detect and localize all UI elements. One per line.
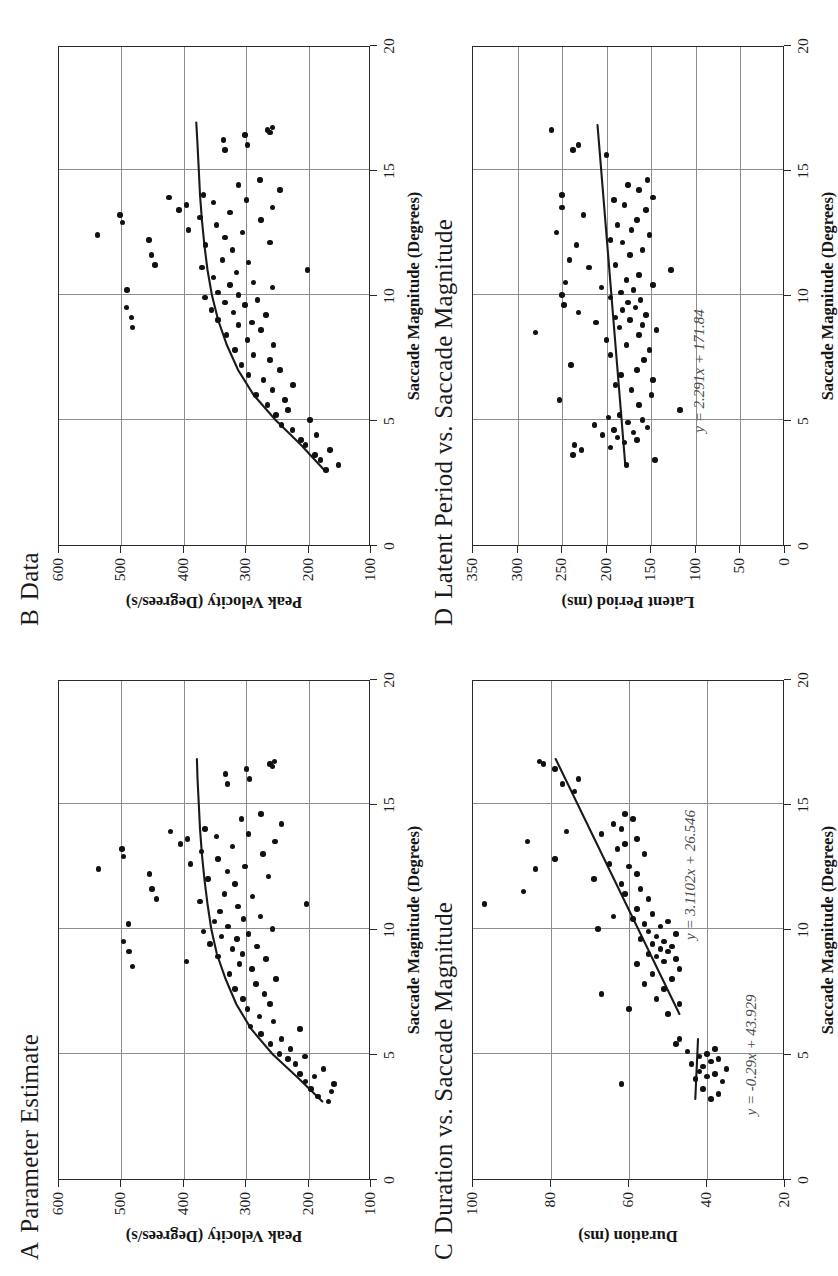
- y-axis-tick: [784, 1180, 785, 1187]
- data-point: [277, 1051, 282, 1056]
- gridline-horizontal: [740, 47, 741, 545]
- gridline-horizontal: [707, 681, 708, 1179]
- data-point: [646, 896, 651, 901]
- data-point: [273, 412, 278, 417]
- data-point: [321, 1066, 326, 1071]
- data-point: [244, 766, 249, 771]
- data-point: [668, 267, 673, 272]
- y-axis-tick: [370, 1180, 371, 1187]
- data-point: [600, 432, 605, 437]
- x-axis-tick: [784, 679, 791, 680]
- data-point: [129, 315, 134, 320]
- data-point: [673, 956, 678, 961]
- data-point: [124, 305, 129, 310]
- data-point: [658, 946, 663, 951]
- x-axis-tick: [784, 1054, 791, 1055]
- data-point: [270, 926, 275, 931]
- data-point: [576, 310, 581, 315]
- data-point: [197, 899, 202, 904]
- panel-a-plot-area: [58, 680, 370, 1180]
- data-point: [185, 836, 190, 841]
- data-point: [608, 352, 613, 357]
- data-point: [593, 320, 598, 325]
- data-point: [661, 939, 666, 944]
- data-point: [624, 462, 629, 467]
- y-axis-tick: [472, 546, 473, 553]
- data-point: [654, 934, 659, 939]
- data-point: [285, 407, 290, 412]
- gridline-vertical: [59, 169, 369, 170]
- data-point: [640, 417, 645, 422]
- data-point: [298, 437, 303, 442]
- data-point: [572, 789, 577, 794]
- data-point: [482, 901, 487, 906]
- gridline-vertical: [59, 419, 369, 420]
- data-point: [290, 382, 295, 387]
- data-point: [197, 215, 202, 220]
- data-point: [279, 821, 284, 826]
- data-point: [611, 821, 616, 826]
- data-point: [260, 851, 265, 856]
- y-axis-tick-label: 50: [730, 558, 748, 630]
- data-point: [247, 776, 252, 781]
- panel-c-title-text: Duration vs. Saccade Magnitude: [430, 902, 457, 1234]
- data-point: [329, 1089, 334, 1094]
- data-point: [712, 1046, 717, 1051]
- data-point: [646, 929, 651, 934]
- data-point: [604, 337, 609, 342]
- x-axis-tick-label: 15: [380, 797, 398, 813]
- data-point: [302, 1054, 307, 1059]
- gridline-horizontal: [696, 47, 697, 545]
- data-point: [297, 1026, 302, 1031]
- data-point: [615, 222, 620, 227]
- data-point: [303, 1079, 308, 1084]
- data-point: [290, 427, 295, 432]
- data-point: [251, 280, 256, 285]
- x-axis-tick-label: 20: [380, 672, 398, 688]
- y-axis-tick: [706, 1180, 707, 1187]
- data-point: [149, 886, 154, 891]
- data-point: [634, 906, 639, 911]
- y-axis-tick: [739, 546, 740, 553]
- data-point: [245, 142, 250, 147]
- data-point: [697, 1054, 702, 1059]
- gridline-horizontal: [184, 47, 185, 545]
- panel-d-plot-area: [472, 46, 784, 546]
- data-point: [202, 826, 207, 831]
- data-point: [665, 949, 670, 954]
- data-point: [205, 876, 210, 881]
- x-axis-tick-label: 15: [794, 163, 812, 179]
- data-point: [225, 781, 230, 786]
- data-point: [650, 911, 655, 916]
- data-point: [199, 849, 204, 854]
- data-point: [266, 874, 271, 879]
- data-point: [119, 846, 124, 851]
- data-point: [277, 187, 282, 192]
- data-point: [248, 1024, 253, 1029]
- data-point: [246, 260, 251, 265]
- data-point: [636, 402, 641, 407]
- x-axis-title: Saccade Magnitude (Degrees): [818, 826, 838, 1035]
- panel-b: BData 05101520100200300400500600Saccade …: [14, 10, 414, 630]
- y-axis-title: Duration (ms): [578, 1226, 677, 1246]
- data-point: [235, 904, 240, 909]
- data-point: [613, 382, 618, 387]
- data-point: [638, 886, 643, 891]
- y-axis-tick-label: 20: [775, 1192, 793, 1264]
- data-point: [211, 200, 216, 205]
- data-point: [253, 392, 258, 397]
- x-axis-tick: [784, 420, 791, 421]
- data-point: [638, 936, 643, 941]
- data-point: [608, 295, 613, 300]
- data-point: [303, 442, 308, 447]
- data-point: [630, 916, 635, 921]
- data-point: [201, 929, 206, 934]
- data-point: [560, 781, 565, 786]
- data-point: [227, 210, 232, 215]
- y-axis-tick-label: 80: [541, 1192, 559, 1264]
- data-point: [652, 457, 657, 462]
- data-point: [647, 347, 652, 352]
- data-point: [224, 332, 229, 337]
- data-point: [559, 292, 564, 297]
- y-axis-tick-label: 600: [49, 558, 67, 630]
